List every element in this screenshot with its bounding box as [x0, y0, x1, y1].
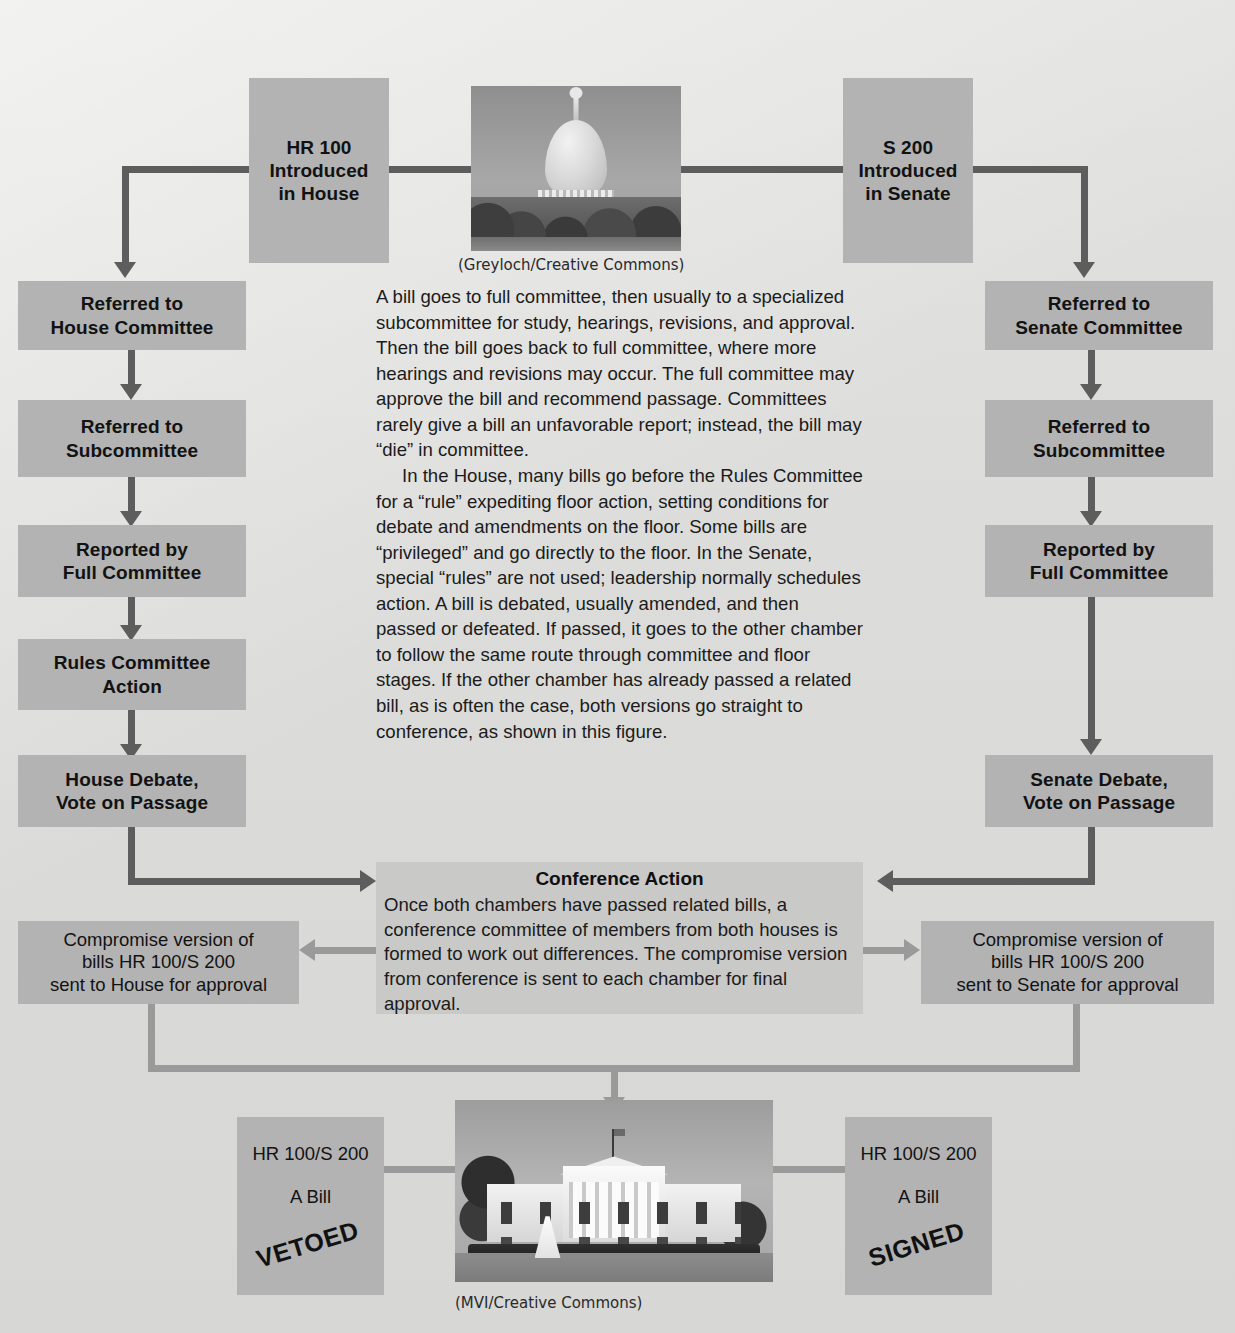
- box-house-reported-full-committee: Reported by Full Committee: [18, 525, 246, 597]
- box-senate-reported-full-committee: Reported by Full Committee: [985, 525, 1213, 597]
- connector-capitol-to-s: [679, 166, 845, 173]
- arrowhead-conference-from-house: [360, 870, 376, 892]
- connector-conference-to-compromise-senate: [862, 947, 906, 954]
- box-house-debate-vote: House Debate, Vote on Passage: [18, 755, 246, 827]
- box-line: House Debate,: [65, 768, 198, 791]
- box-bill-vetoed: HR 100/S 200 A Bill VETOED: [237, 1117, 384, 1295]
- white-house-photo: [455, 1100, 773, 1282]
- box-line: bills HR 100/S 200: [82, 951, 235, 974]
- box-line: House Committee: [50, 316, 213, 339]
- box-line: A Bill: [898, 1186, 939, 1209]
- signed-stamp: SIGNED: [865, 1215, 968, 1273]
- box-senate-debate-vote: Senate Debate, Vote on Passage: [985, 755, 1213, 827]
- box-line: Vote on Passage: [56, 791, 208, 814]
- box-line: sent to House for approval: [50, 974, 267, 997]
- connector-hr-left-horizontal: [122, 166, 251, 173]
- box-house-referred-subcommittee: Referred to Subcommittee: [18, 400, 246, 477]
- box-line: Senate Debate,: [1030, 768, 1168, 791]
- box-line: Reported by: [76, 538, 188, 561]
- arrowhead-to-senate-committee: [1073, 262, 1095, 278]
- box-line: HR 100/S 200: [252, 1143, 368, 1166]
- connector-hr-left-vertical: [122, 166, 129, 264]
- box-referred-senate-committee: Referred to Senate Committee: [985, 281, 1213, 350]
- conference-action-body: Once both chambers have passed related b…: [384, 893, 855, 1017]
- connector-house-committee-to-sub: [128, 350, 135, 388]
- box-line: Full Committee: [1030, 561, 1169, 584]
- connector-president-to-vetoed: [384, 1166, 456, 1173]
- connector-senate-full-to-debate: [1088, 597, 1095, 743]
- box-rules-committee-action: Rules Committee Action: [18, 639, 246, 710]
- arrowhead-conference-from-senate: [877, 870, 893, 892]
- white-house-lawn: [455, 1253, 773, 1282]
- box-line: bills HR 100/S 200: [991, 951, 1144, 974]
- diagram-canvas: HR 100 Introduced in House S 200 Introdu…: [0, 0, 1235, 1333]
- box-line: S 200: [883, 136, 933, 159]
- box-line: Subcommittee: [1033, 439, 1165, 462]
- narrative-text: A bill goes to full committee, then usua…: [376, 284, 863, 744]
- arrowhead-house-subcommittee: [120, 384, 142, 400]
- connector-rules-to-house-debate: [128, 710, 135, 748]
- connector-senate-debate-down: [1088, 827, 1095, 885]
- conference-action-block: Conference Action Once both chambers hav…: [376, 862, 863, 1014]
- connector-compromise-senate-down: [1073, 1004, 1080, 1072]
- conference-action-title: Conference Action: [384, 868, 855, 890]
- white-house-flag: [612, 1129, 614, 1158]
- box-line: Referred to: [1048, 415, 1150, 438]
- box-line: Subcommittee: [66, 439, 198, 462]
- connector-president-to-signed: [772, 1166, 846, 1173]
- box-hr-100-introduced: HR 100 Introduced in House: [249, 78, 389, 263]
- box-line: A Bill: [290, 1186, 331, 1209]
- box-line: Reported by: [1043, 538, 1155, 561]
- narrative-paragraph-1: A bill goes to full committee, then usua…: [376, 284, 863, 463]
- box-line: Action: [102, 675, 162, 698]
- capitol-lawn: [471, 237, 681, 251]
- narrative-paragraph-2: In the House, many bills go before the R…: [376, 463, 863, 744]
- box-line: HR 100/S 200: [860, 1143, 976, 1166]
- box-bill-signed: HR 100/S 200 A Bill SIGNED: [845, 1117, 992, 1295]
- connector-s-right-horizontal: [971, 166, 1088, 173]
- connector-house-debate-down: [128, 827, 135, 885]
- arrowhead-senate-debate: [1080, 739, 1102, 755]
- box-line: in House: [278, 182, 359, 205]
- capitol-photo: [471, 86, 681, 251]
- box-line: Rules Committee: [54, 651, 211, 674]
- box-compromise-senate: Compromise version of bills HR 100/S 200…: [921, 921, 1214, 1004]
- connector-house-debate-to-conference: [128, 878, 362, 885]
- arrowhead-compromise-senate: [904, 939, 920, 961]
- box-line: Vote on Passage: [1023, 791, 1175, 814]
- box-line: in Senate: [865, 182, 950, 205]
- box-line: Compromise version of: [972, 929, 1162, 952]
- connector-senate-committee-to-sub: [1088, 350, 1095, 388]
- box-line: Referred to: [1048, 292, 1150, 315]
- capitol-photo-caption: (Greyloch/Creative Commons): [458, 256, 684, 274]
- connector-house-sub-to-full: [128, 477, 135, 515]
- box-line: Senate Committee: [1015, 316, 1182, 339]
- box-referred-house-committee: Referred to House Committee: [18, 281, 246, 350]
- connector-s-right-vertical: [1081, 166, 1088, 264]
- box-senate-referred-subcommittee: Referred to Subcommittee: [985, 400, 1213, 477]
- box-line: Compromise version of: [63, 929, 253, 952]
- box-line: Referred to: [81, 415, 183, 438]
- connector-conference-to-compromise-house: [315, 947, 377, 954]
- arrowhead-senate-subcommittee: [1080, 384, 1102, 400]
- arrowhead-compromise-house: [299, 939, 315, 961]
- box-line: HR 100: [286, 136, 351, 159]
- box-line: sent to Senate for approval: [956, 974, 1178, 997]
- box-compromise-house: Compromise version of bills HR 100/S 200…: [18, 921, 299, 1004]
- connector-senate-debate-to-conference: [893, 878, 1095, 885]
- box-line: Referred to: [81, 292, 183, 315]
- connector-senate-sub-to-full: [1088, 477, 1095, 515]
- connector-compromise-house-down: [148, 1004, 155, 1072]
- box-line: Introduced: [858, 159, 957, 182]
- veto-stamp: VETOED: [253, 1214, 363, 1274]
- box-line: Introduced: [269, 159, 368, 182]
- box-line: Full Committee: [63, 561, 202, 584]
- white-house-photo-caption: (MVI/Creative Commons): [455, 1294, 642, 1312]
- box-s-200-introduced: S 200 Introduced in Senate: [843, 78, 973, 263]
- connector-hr-to-capitol: [389, 166, 473, 173]
- arrowhead-to-house-committee: [114, 262, 136, 278]
- white-house-upper-windows: [487, 1202, 741, 1224]
